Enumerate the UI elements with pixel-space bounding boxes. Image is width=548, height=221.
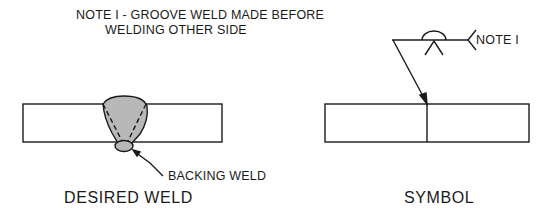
desired-weld-caption: DESIRED WELD — [64, 189, 193, 207]
backing-weld-leader — [135, 152, 163, 176]
backing-weld-label: BACKING WELD — [168, 169, 266, 183]
symbol-tail-note: NOTE I — [476, 33, 519, 47]
note-text: NOTE I - GROOVE WELD MADE BEFORE WELDING… — [76, 8, 276, 38]
arrowhead-icon — [420, 93, 427, 104]
arrow-leader — [393, 40, 424, 98]
note-line-1: NOTE I - GROOVE WELD MADE BEFORE — [76, 8, 276, 23]
desired-weld-drawing — [23, 96, 222, 176]
backing-weld-bead — [115, 141, 133, 152]
melt-through-arc-icon — [422, 31, 446, 40]
symbol-caption: SYMBOL — [404, 189, 474, 207]
v-groove-symbol-icon — [425, 41, 443, 55]
tail-icon — [468, 30, 476, 50]
note-line-2: WELDING OTHER SIDE — [76, 23, 276, 38]
